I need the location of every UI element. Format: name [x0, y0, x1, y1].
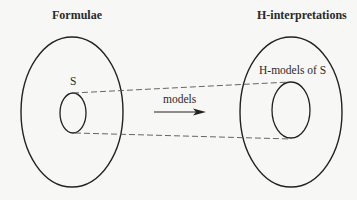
s-subset-ellipse [60, 93, 86, 133]
dashed-connector-bottom [75, 133, 291, 139]
models-arrow-label: models [163, 93, 196, 105]
models-arrow-icon [154, 109, 206, 116]
h-models-subset-ellipse [272, 82, 310, 138]
formulae-title: Formulae [52, 8, 102, 23]
h-interpretations-set-ellipse [240, 37, 342, 187]
dashed-connector-top [73, 82, 290, 93]
formulae-set-ellipse [21, 37, 123, 187]
h-models-subset-label: H-models of S [259, 64, 326, 76]
diagram-canvas: Formulae H-interpretations S H-models of… [0, 0, 357, 200]
h-interpretations-title: H-interpretations [257, 8, 347, 23]
s-subset-label: S [70, 75, 76, 87]
